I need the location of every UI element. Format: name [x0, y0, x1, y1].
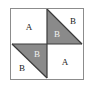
outer-square: A B B B B A — [10, 8, 84, 80]
quadrant-shading-svg — [11, 9, 83, 79]
geometry-figure: A B B B B A — [0, 0, 94, 88]
